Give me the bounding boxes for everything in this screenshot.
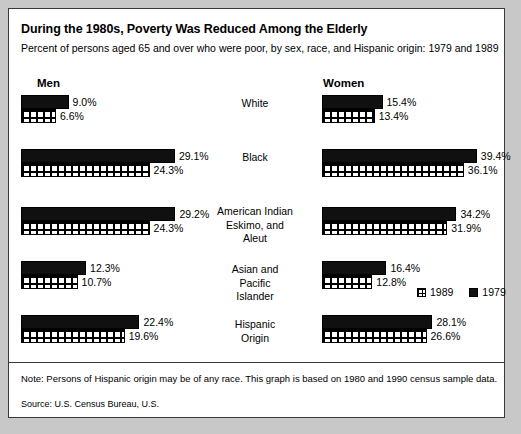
bar-women-2-1979 [322, 149, 477, 163]
value-label-men-4-1979: 12.3% [90, 261, 120, 275]
value-label-women-3-1989: 31.9% [451, 221, 481, 235]
plot-area: 9.0%6.6%29.1%24.3%29.2%24.3%12.3%10.7%22… [9, 9, 506, 419]
value-label-men-5-1979: 22.4% [143, 315, 173, 329]
value-label-men-1-1979: 9.0% [73, 95, 97, 109]
bar-men-1-1979 [21, 95, 69, 109]
value-label-women-3-1979: 34.2% [460, 207, 490, 221]
value-label-women-4-1989: 12.8% [376, 275, 406, 289]
value-label-women-1-1989: 13.4% [379, 109, 409, 123]
bar-women-5-1979 [322, 315, 432, 329]
bar-men-4-1989 [21, 275, 78, 289]
legend-label-1989: 1989 [430, 286, 453, 298]
value-label-men-1-1989: 6.6% [60, 109, 84, 123]
legend-label-1979: 1979 [482, 286, 505, 298]
bar-men-4-1979 [21, 261, 86, 275]
category-label-3: American Indian Eskimo, and Aleut [195, 205, 315, 246]
value-label-women-2-1979: 39.4% [481, 149, 511, 163]
category-label-5: Hispanic Origin [195, 318, 315, 345]
category-label-4: Asian and Pacific Islander [195, 263, 315, 304]
chart-figure: During the 1980s, Poverty Was Reduced Am… [8, 8, 505, 418]
legend-swatch-1979-icon [469, 288, 478, 297]
bar-women-1-1989 [322, 109, 375, 123]
bar-men-5-1989 [21, 329, 125, 343]
value-label-men-5-1989: 19.6% [129, 329, 159, 343]
value-label-men-3-1989: 24.3% [154, 221, 184, 235]
value-label-men-4-1989: 10.7% [82, 275, 112, 289]
value-label-women-4-1979: 16.4% [390, 261, 420, 275]
value-label-women-2-1989: 36.1% [468, 163, 498, 177]
category-label-2: Black [195, 151, 315, 165]
bar-women-3-1989 [322, 221, 447, 235]
chart-note: Note: Persons of Hispanic origin may be … [21, 373, 497, 384]
chart-legend: 1989 1979 [417, 286, 506, 298]
chart-source: Source: U.S. Census Bureau, U.S. [21, 399, 159, 409]
value-label-women-5-1989: 26.6% [431, 329, 461, 343]
value-label-women-5-1979: 28.1% [436, 315, 466, 329]
bar-men-2-1989 [21, 163, 150, 177]
legend-item-1979: 1979 [469, 286, 505, 298]
bar-women-4-1979 [322, 261, 386, 275]
value-label-men-2-1989: 24.3% [154, 163, 184, 177]
footer-divider [9, 362, 504, 363]
bar-men-1-1989 [21, 109, 56, 123]
legend-item-1989: 1989 [417, 286, 453, 298]
bar-women-1-1979 [322, 95, 383, 109]
value-label-women-1-1979: 15.4% [387, 95, 417, 109]
bar-women-2-1989 [322, 163, 464, 177]
bar-women-5-1989 [322, 329, 427, 343]
bar-women-4-1989 [322, 275, 372, 289]
category-label-1: White [195, 97, 315, 111]
bar-men-3-1979 [21, 207, 175, 221]
bar-men-3-1989 [21, 221, 150, 235]
legend-swatch-1989-icon [417, 288, 426, 297]
bar-women-3-1979 [322, 207, 456, 221]
bar-men-2-1979 [21, 149, 175, 163]
bar-men-5-1979 [21, 315, 139, 329]
